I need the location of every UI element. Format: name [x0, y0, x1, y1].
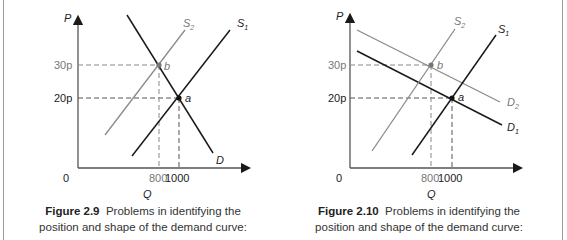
point-a [449, 95, 454, 100]
x-axis-label: Q [427, 188, 436, 200]
figure-2-9-caption: Figure 2.9 Problems in identifying the p… [28, 203, 258, 235]
origin-label: 0 [336, 172, 342, 184]
x-tick-1000: 1000 [165, 172, 189, 184]
y-tick-30p: 30p [328, 59, 346, 71]
y-tick-20p: 20p [54, 92, 72, 104]
x-tick-1000: 1000 [438, 172, 462, 184]
point-b [428, 62, 433, 67]
label-a: a [185, 92, 191, 104]
label-D: D [216, 154, 224, 166]
curve-S1 [412, 35, 496, 155]
label-S1: S1 [498, 23, 509, 37]
point-b [156, 62, 161, 67]
point-a [176, 95, 181, 100]
curve-D [127, 15, 213, 153]
figure-2-10-diagram: P 30p 20p 0 800 1000 Q S2 S1 D2 D1 b a [328, 10, 519, 200]
label-a: a [458, 91, 464, 103]
y-tick-20p: 20p [328, 92, 346, 104]
y-tick-30p: 30p [54, 59, 72, 71]
label-S2: S2 [454, 15, 465, 29]
label-S1: S1 [237, 17, 248, 31]
label-D2: D2 [507, 96, 519, 110]
caption-number: Figure 2.10 [318, 205, 379, 217]
y-axis-label: P [336, 10, 344, 22]
label-D1: D1 [507, 121, 519, 135]
curve-S2 [372, 29, 455, 151]
curve-D2 [357, 30, 500, 102]
label-b: b [164, 60, 170, 72]
caption-number: Figure 2.9 [45, 205, 99, 217]
origin-label: 0 [63, 172, 69, 184]
x-axis-label: Q [143, 188, 152, 200]
figure-2-10-caption: Figure 2.10 Problems in identifying the … [304, 203, 534, 235]
label-S2: S2 [183, 17, 194, 31]
curve-S1 [132, 30, 230, 156]
curve-D1 [357, 51, 502, 125]
y-axis-label: P [64, 12, 72, 24]
label-b: b [437, 59, 443, 71]
x-tick-800: 800 [421, 172, 439, 184]
curve-S2 [105, 30, 185, 135]
